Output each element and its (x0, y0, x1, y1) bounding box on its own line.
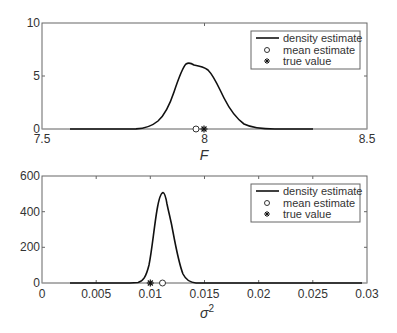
legend-circle-swatch (265, 201, 270, 206)
plot-sigma2-xlabel: σ2 (200, 303, 214, 321)
plot-f: 0 5 10 7.5 8 8.5 F (27, 16, 376, 163)
plot-f-xlabel: F (200, 147, 210, 163)
plot-sigma2-xtick-0-01: 0.01 (139, 287, 163, 301)
figure: 0 5 10 7.5 8 8.5 F (0, 0, 397, 333)
plot-sigma2-xtick-0-02: 0.02 (247, 287, 271, 301)
plot-sigma2-xlabel-sup: 2 (208, 303, 214, 314)
plot-sigma2-legend: density estimate mean estimate true valu… (251, 184, 362, 222)
plot-sigma2-true-marker (147, 280, 154, 287)
plot-f-yticklabels: 0 5 10 (27, 16, 41, 136)
legend-label-true: true value (283, 55, 331, 67)
plot-sigma2-ytick-400: 400 (20, 205, 40, 219)
plot-f-true-marker (201, 126, 208, 133)
plot-sigma2-ytick-200: 200 (20, 240, 40, 254)
plot-sigma2-ytick-600: 600 (20, 169, 40, 183)
plot-sigma2-xticklabels: 0 0.005 0.01 0.015 0.02 0.025 0.03 (39, 287, 379, 301)
plot-f-xtick-8-5: 8.5 (359, 132, 376, 146)
plot-sigma2-xtick-0-005: 0.005 (81, 287, 111, 301)
plot-f-xtick-8: 8 (201, 132, 208, 146)
plot-f-xtick-7-5: 7.5 (34, 132, 51, 146)
plot-sigma2: 0 200 400 600 0 0.005 0.01 0.015 0.02 0.… (20, 169, 379, 321)
legend-label-density: density estimate (283, 32, 362, 44)
plot-f-ytick-5: 5 (33, 69, 40, 83)
plot-f-ytick-10: 10 (27, 16, 41, 30)
legend-label-density: density estimate (283, 185, 362, 197)
plot-f-xticklabels: 7.5 8 8.5 (34, 132, 376, 146)
legend-label-true: true value (283, 208, 331, 220)
plot-sigma2-xtick-0-03: 0.03 (355, 287, 379, 301)
plot-sigma2-yticklabels: 0 200 400 600 (20, 169, 40, 290)
plot-sigma2-xtick-0: 0 (39, 287, 46, 301)
plot-f-legend: density estimate mean estimate true valu… (251, 31, 362, 69)
plot-sigma2-xtick-0-015: 0.015 (189, 287, 219, 301)
legend-circle-swatch (265, 48, 270, 53)
plot-sigma2-xtick-0-025: 0.025 (298, 287, 328, 301)
plot-f-mean-marker (193, 126, 199, 132)
plot-sigma2-mean-marker (160, 280, 166, 286)
